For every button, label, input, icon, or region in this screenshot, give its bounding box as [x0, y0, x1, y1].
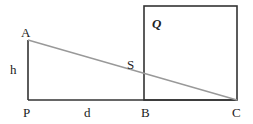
label-b: B	[141, 105, 150, 120]
label-q: Q	[152, 16, 162, 31]
label-p: P	[23, 105, 30, 120]
label-h: h	[10, 62, 17, 77]
label-s: S	[127, 57, 134, 72]
label-a: A	[21, 25, 31, 40]
label-c: C	[232, 105, 241, 120]
label-d: d	[84, 105, 91, 120]
geometry-diagram: A h P d B C S Q	[0, 0, 253, 124]
